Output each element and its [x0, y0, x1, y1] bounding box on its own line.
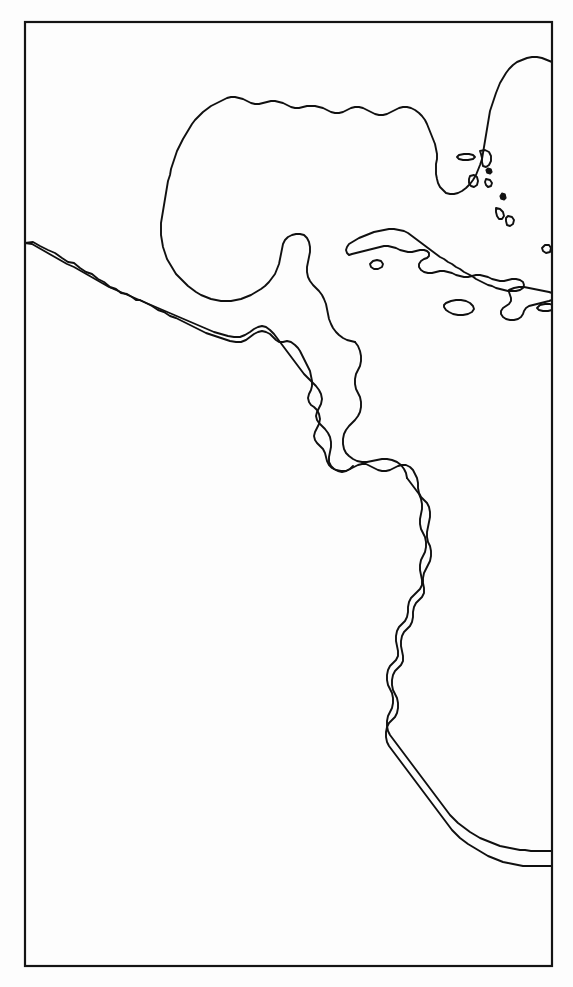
map-figure: [0, 0, 573, 987]
mona-islet: [486, 168, 492, 174]
map-canvas: [0, 0, 573, 987]
bahamas-cat-island: [500, 193, 506, 200]
map-background: [0, 0, 573, 987]
